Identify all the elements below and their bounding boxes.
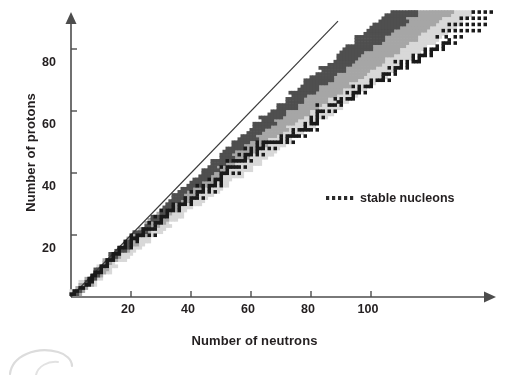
x-axis-title: Number of neutrons: [0, 333, 509, 348]
y-axis-title: Number of protons: [23, 53, 38, 253]
x-tick-label-40: 40: [181, 302, 195, 316]
x-tick-label-60: 60: [241, 302, 255, 316]
stable-nucleons-marker-icon: [326, 194, 354, 202]
x-tick-label-80: 80: [301, 302, 315, 316]
chart-legend: stable nucleons: [326, 191, 454, 205]
nuclide-chart-figure: 20 40 60 80 100 20 40 60 80 Number of ne…: [0, 0, 509, 375]
chart-plot-area: [0, 0, 509, 375]
legend-label-stable-nucleons: stable nucleons: [360, 191, 454, 205]
x-tick-label-20: 20: [121, 302, 135, 316]
x-tick-label-100: 100: [358, 302, 379, 316]
